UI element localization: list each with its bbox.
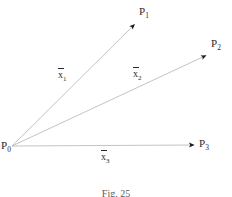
vector-line-x3 <box>12 145 194 146</box>
vector-label-x2: x2 <box>133 69 142 82</box>
vector-line-x1 <box>12 25 135 147</box>
point-label-p2-subscript: 2 <box>217 43 221 52</box>
vector-label-x3-subscript: 3 <box>106 157 110 165</box>
vector-label-x3-symbol: x <box>101 152 106 162</box>
vector-diagram-figure: P0 P1 P2 P3 x1 x2 x3 Fig. 25 <box>0 0 232 197</box>
vector-label-x1-subscript: 1 <box>63 75 67 83</box>
vector-label-x2-symbol: x <box>133 69 138 79</box>
point-label-p0: P0 <box>1 140 11 154</box>
vector-canvas <box>0 0 232 197</box>
point-label-p3-subscript: 3 <box>205 143 209 152</box>
point-label-p3: P3 <box>199 138 209 152</box>
vector-line-x2 <box>12 56 206 147</box>
point-label-p1: P1 <box>139 6 149 20</box>
vector-label-x1-symbol: x <box>58 70 63 80</box>
vector-label-x1: x1 <box>58 70 67 83</box>
point-label-p1-subscript: 1 <box>145 11 149 20</box>
figure-caption: Fig. 25 <box>0 188 232 197</box>
point-label-p2: P2 <box>211 38 221 52</box>
point-label-p0-subscript: 0 <box>7 145 11 154</box>
vector-label-x3: x3 <box>101 152 110 165</box>
vector-label-x2-subscript: 2 <box>138 74 142 82</box>
